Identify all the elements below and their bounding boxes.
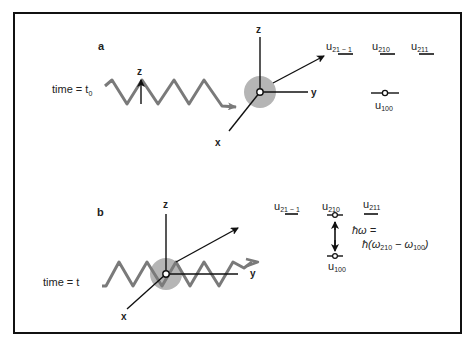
energy-levels-b: u21 − 1 u210 u211 u100 ħω = ħ(ω210 − ω10… — [274, 198, 429, 273]
panel-a-label: a — [98, 40, 105, 52]
level-label-u210-b: u210 — [322, 200, 340, 213]
electron-u100-a — [382, 90, 387, 95]
z-axis-label-b: z — [163, 199, 168, 210]
level-label-u211-b: u211 — [363, 198, 380, 211]
panel-a-time-label: time = t0 — [52, 83, 92, 97]
energy-levels-a: u21 − 1 u210 u211 u100 — [326, 40, 434, 112]
nucleus-b — [163, 271, 169, 277]
energy-equation-lhs: ħω = — [352, 224, 377, 236]
figure-canvas: a time = t0 z z y x u21 − 1 u210 u211 u1… — [0, 0, 471, 343]
figure-frame — [14, 13, 461, 333]
x-axis-label-a: x — [215, 137, 221, 148]
x-axis-b — [127, 274, 166, 309]
level-label-u210-a: u210 — [372, 40, 390, 53]
em-wave-a — [105, 80, 236, 107]
panel-b-time-label: time = t — [43, 276, 79, 288]
panel-b-label: b — [97, 206, 104, 218]
panel-b: b time = t z y x u21 − 1 u210 u211 — [43, 198, 429, 322]
y-axis-label-a: y — [311, 87, 317, 98]
propagation-arrow-b — [176, 228, 238, 262]
level-label-u21m1-b: u21 − 1 — [274, 200, 300, 213]
z-axis-label-a: z — [256, 24, 261, 35]
level-label-u211-a: u211 — [411, 40, 428, 53]
x-axis-a — [229, 92, 260, 131]
y-axis-label-b: y — [250, 268, 256, 279]
field-z-label-a: z — [137, 66, 142, 77]
level-label-u21m1-a: u21 − 1 — [326, 40, 352, 53]
state-u210-b — [333, 213, 338, 218]
nucleus-a — [257, 89, 263, 95]
panel-a: a time = t0 z z y x u21 − 1 u210 u211 u1… — [52, 24, 434, 148]
state-u100-b — [333, 254, 338, 259]
x-axis-label-b: x — [121, 311, 127, 322]
level-label-u100-a: u100 — [375, 99, 393, 112]
propagation-arrow-a — [273, 56, 324, 83]
energy-equation-rhs: ħ(ω210 − ω100) — [362, 238, 429, 251]
level-label-u100-b: u100 — [328, 260, 346, 273]
